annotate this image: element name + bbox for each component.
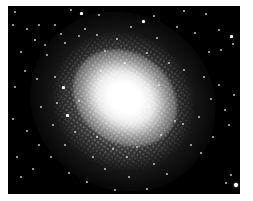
star: [84, 28, 86, 30]
star: [148, 106, 150, 108]
star: [182, 123, 184, 125]
star: [224, 109, 226, 111]
star: [96, 136, 98, 138]
star: [228, 124, 230, 126]
star: [96, 34, 98, 36]
star: [168, 62, 170, 64]
star: [26, 28, 28, 30]
star: [230, 174, 232, 176]
star: [32, 168, 34, 170]
star: [14, 86, 16, 88]
star: [203, 76, 205, 78]
star: [46, 54, 48, 56]
star: [36, 78, 38, 80]
star: [104, 50, 106, 52]
star: [52, 124, 54, 126]
star: [112, 148, 114, 150]
star: [44, 44, 46, 46]
star: [210, 98, 212, 100]
star: [100, 70, 102, 72]
star: [70, 9, 72, 11]
star: [212, 136, 214, 138]
star: [128, 176, 130, 178]
star: [34, 39, 36, 41]
star: [176, 26, 178, 28]
star: [54, 76, 56, 78]
star: [183, 69, 185, 71]
star: [142, 20, 145, 23]
star: [166, 173, 168, 175]
star: [24, 70, 26, 72]
star: [56, 102, 58, 104]
star: [208, 51, 210, 53]
star: [78, 35, 80, 37]
star: [12, 24, 14, 26]
star: [156, 37, 158, 39]
star: [126, 156, 128, 158]
star: [64, 42, 66, 44]
star: [174, 120, 176, 122]
star: [218, 84, 220, 86]
star: [114, 189, 116, 191]
star: [220, 49, 222, 51]
star: [160, 134, 162, 136]
star: [198, 116, 200, 118]
star: [80, 12, 83, 15]
star: [14, 11, 16, 13]
star: [190, 144, 192, 146]
star: [68, 172, 70, 174]
star: [116, 38, 118, 40]
star: [86, 181, 88, 183]
star: [194, 32, 196, 34]
star: [146, 188, 148, 190]
star: [38, 24, 40, 26]
star: [66, 114, 69, 117]
star: [16, 156, 18, 158]
star: [12, 118, 14, 120]
star: [146, 52, 148, 54]
globular-cluster-photo: [8, 6, 240, 194]
star: [234, 183, 238, 187]
star: [158, 84, 160, 86]
star: [218, 29, 220, 31]
star: [225, 182, 227, 184]
star: [60, 33, 62, 35]
star: [205, 13, 207, 15]
star: [50, 156, 52, 158]
star: [130, 26, 132, 28]
star: [62, 86, 65, 89]
star: [233, 94, 235, 96]
star: [98, 14, 100, 16]
star: [104, 168, 106, 170]
star: [92, 156, 94, 158]
star: [74, 131, 76, 133]
star: [40, 106, 42, 108]
star: [26, 130, 28, 132]
star: [38, 144, 40, 146]
star: [183, 10, 185, 12]
star: [230, 35, 233, 38]
star: [136, 146, 138, 148]
star: [153, 163, 155, 165]
star: [124, 62, 126, 64]
star: [200, 152, 202, 154]
star: [78, 100, 80, 102]
star: [54, 24, 56, 26]
star: [153, 15, 155, 17]
star: [20, 176, 22, 178]
star: [64, 144, 66, 146]
star: [20, 51, 22, 53]
star: [232, 43, 234, 45]
